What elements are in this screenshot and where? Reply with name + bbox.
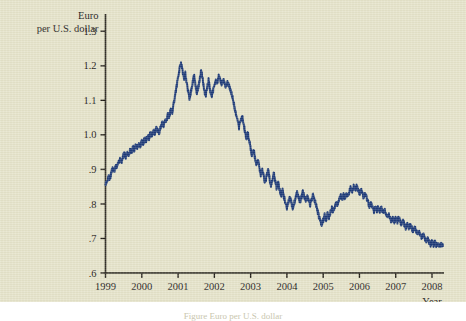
y-axis-ticks: .6.7.8.91.01.11.21.3 — [83, 26, 105, 279]
y-tick-label: 1.1 — [83, 95, 96, 106]
x-tick-label: 2004 — [276, 281, 298, 292]
y-tick-label: 1.2 — [83, 60, 96, 71]
x-tick-label: 2005 — [313, 281, 334, 292]
x-tick-label: 2007 — [385, 281, 406, 292]
data-series — [106, 62, 443, 247]
x-tick-label: 2008 — [422, 281, 443, 292]
axes — [106, 14, 445, 273]
chart-figure: .6.7.8.91.01.11.21.3 1999200020012002200… — [0, 0, 466, 302]
figure-caption: Figure Euro per U.S. dollar — [0, 311, 466, 321]
x-tick-label: 2006 — [349, 281, 370, 292]
y-tick-label: .6 — [89, 268, 97, 279]
y-axis-label-line2: per U.S. dollar — [37, 23, 99, 34]
x-tick-label: 2001 — [168, 281, 189, 292]
x-tick-label: 2003 — [240, 281, 261, 292]
y-tick-label: 1.0 — [83, 129, 96, 140]
y-tick-label: .9 — [89, 164, 97, 175]
x-tick-label: 1999 — [95, 281, 116, 292]
euro-per-usd-line-chart: .6.7.8.91.01.11.21.3 1999200020012002200… — [0, 0, 466, 302]
x-tick-label: 2002 — [204, 281, 225, 292]
series-line — [106, 62, 443, 247]
y-axis-label-line1: Euro — [78, 10, 98, 21]
x-axis-ticks: 1999200020012002200320042005200620072008 — [95, 273, 443, 292]
y-tick-label: .8 — [89, 199, 97, 210]
x-tick-label: 2000 — [131, 281, 152, 292]
y-tick-label: .7 — [89, 233, 97, 244]
caption-strip: Figure Euro per U.S. dollar — [0, 302, 466, 321]
